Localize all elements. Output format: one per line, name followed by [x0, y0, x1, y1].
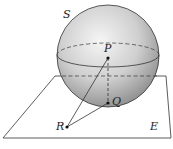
label-r: R [56, 121, 64, 132]
sphere-plane-diagram: S P Q R E [0, 0, 173, 149]
label-p: P [104, 43, 111, 54]
segment-rq [67, 103, 108, 127]
sphere-s [57, 5, 159, 107]
point-p [106, 56, 109, 59]
label-s: S [63, 9, 71, 20]
point-q [106, 101, 109, 104]
label-q: Q [112, 96, 121, 107]
label-e: E [150, 121, 158, 132]
diagram-svg [0, 0, 173, 149]
point-r [65, 125, 68, 128]
